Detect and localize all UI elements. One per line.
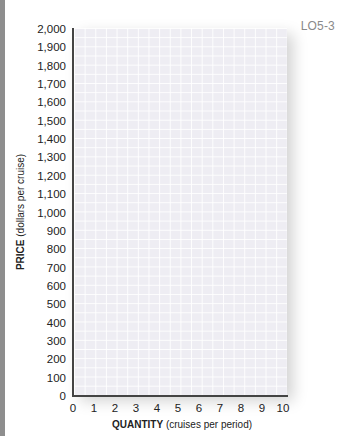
y-tick-label: 1,300 <box>37 151 66 163</box>
y-tick-label: 1,700 <box>37 78 66 90</box>
page-edge-bar <box>0 0 5 436</box>
y-tick-label: 100 <box>47 372 66 384</box>
y-tick-label: 800 <box>47 243 66 255</box>
y-tick-label: 1,600 <box>37 96 66 108</box>
y-tick-label: 0 <box>60 390 66 402</box>
y-axis-line <box>72 28 74 397</box>
x-tick-label: 8 <box>238 402 244 414</box>
y-tick-label: 1,800 <box>37 60 66 72</box>
x-axis-label-units: (cruises per period) <box>166 419 252 430</box>
y-tick-label: 1,000 <box>37 207 66 219</box>
y-axis-label-bold: PRICE <box>15 240 26 271</box>
x-tick-label: 6 <box>196 402 202 414</box>
x-tick-label: 7 <box>217 402 223 414</box>
x-axis-label-bold: QUANTITY <box>112 419 163 430</box>
x-axis-line <box>72 395 288 397</box>
y-tick-label: 1,900 <box>37 41 66 53</box>
y-tick-label: 1,100 <box>37 188 66 200</box>
y-tick-label: 200 <box>47 353 66 365</box>
x-tick-label: 0 <box>70 402 76 414</box>
x-tick-label: 9 <box>259 402 265 414</box>
x-tick-label: 2 <box>112 402 118 414</box>
y-tick-label: 1,200 <box>37 170 66 182</box>
x-tick-label: 10 <box>277 402 290 414</box>
y-tick-label: 300 <box>47 335 66 347</box>
x-tick-label: 1 <box>91 402 97 414</box>
y-axis-label: PRICE (dollars per cruise) <box>15 154 26 270</box>
y-tick-label: 500 <box>47 298 66 310</box>
y-tick-label: 400 <box>47 317 66 329</box>
x-tick-label: 4 <box>154 402 160 414</box>
y-axis-label-units: (dollars per cruise) <box>15 154 26 237</box>
x-tick-label: 5 <box>175 402 181 414</box>
y-tick-label: 700 <box>47 262 66 274</box>
x-axis-label: QUANTITY (cruises per period) <box>112 419 252 430</box>
y-tick-label: 900 <box>47 225 66 237</box>
y-tick-label: 600 <box>47 280 66 292</box>
x-tick-label: 3 <box>133 402 139 414</box>
y-tick-label: 2,000 <box>37 23 66 35</box>
y-tick-label: 1,500 <box>37 115 66 127</box>
learning-objective-tag: LO5-3 <box>301 19 335 33</box>
y-tick-label: 1,400 <box>37 133 66 145</box>
plot-grid <box>74 28 287 395</box>
